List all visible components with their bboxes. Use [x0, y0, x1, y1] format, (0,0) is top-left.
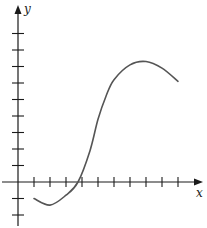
y-axis	[12, 5, 24, 226]
function-graph	[0, 0, 207, 228]
y-axis-arrow-icon	[15, 5, 22, 14]
x-axis	[2, 177, 203, 187]
x-axis-label: x	[196, 186, 203, 200]
y-axis-label: y	[24, 2, 31, 16]
x-axis-arrow-icon	[194, 179, 203, 186]
function-curve	[34, 61, 178, 205]
